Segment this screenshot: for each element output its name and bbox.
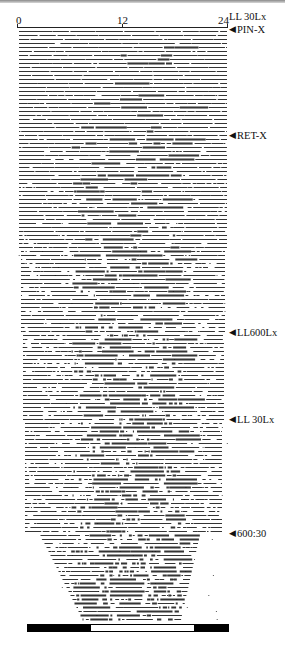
light-dark-bar — [27, 624, 229, 632]
label-ll-30lx: ◀LL 30Lx — [229, 414, 274, 426]
label-ll600lx: ◀LL600Lx — [229, 327, 277, 339]
dark-segment — [28, 625, 91, 631]
dark-segment — [194, 625, 228, 631]
label-ll-30lx-top: LL 30Lx — [229, 11, 266, 23]
arrow-left-icon: ◀ — [229, 527, 236, 539]
arrow-left-icon: ◀ — [229, 23, 236, 35]
arrow-left-icon: ◀ — [229, 129, 236, 141]
arrow-left-icon: ◀ — [229, 326, 236, 338]
actogram-plot — [0, 0, 285, 650]
label-ret-x: ◀RET-X — [229, 130, 267, 142]
light-segment — [91, 625, 194, 631]
arrow-left-icon: ◀ — [229, 413, 236, 425]
label-600-30: ◀600:30 — [229, 528, 266, 540]
label-pin-x: ◀PIN-X — [229, 24, 265, 36]
